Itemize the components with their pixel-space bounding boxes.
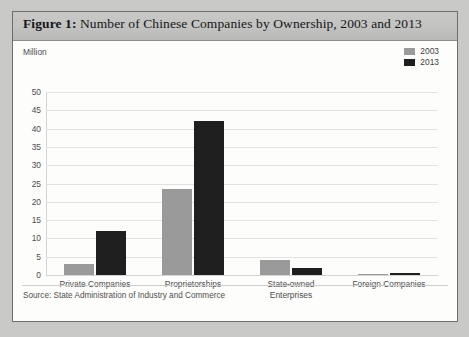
plot-area: 05101520253035404550Private CompaniesPro… [46, 92, 438, 275]
y-axis-unit-label: Million [23, 47, 47, 57]
gridline-45 [46, 110, 438, 111]
scan-page-background: Figure 1: Number of Chinese Companies by… [0, 0, 469, 337]
x-axis-category-label: State-ownedEnterprises [242, 279, 340, 300]
x-axis-label-line: Private Companies [60, 279, 131, 289]
x-axis-label-line: Foreign Companies [352, 279, 425, 289]
y-axis-tick-label: 45 [32, 105, 41, 115]
chart-legend: 20032013 [404, 46, 439, 68]
bar-2003-0 [64, 264, 94, 275]
y-axis-tick-label: 25 [32, 179, 41, 189]
x-axis-label-line: Enterprises [270, 290, 312, 300]
figure-title-text: Number of Chinese Companies by Ownership… [77, 16, 422, 31]
figure-title: Figure 1: Number of Chinese Companies by… [23, 16, 422, 32]
source-divider [22, 285, 448, 286]
bar-2013-2 [292, 268, 322, 275]
gridline-40 [46, 129, 438, 130]
y-axis-tick-label: 15 [32, 215, 41, 225]
gridline-15 [46, 220, 438, 221]
y-axis-tick-label: 40 [32, 124, 41, 134]
y-axis-tick-label: 50 [32, 87, 41, 97]
y-axis-tick-label: 10 [32, 233, 41, 243]
legend-item-2003: 2003 [404, 46, 439, 57]
legend-label: 2013 [420, 57, 439, 68]
y-axis-tick-label: 20 [32, 197, 41, 207]
y-axis-tick-label: 0 [36, 270, 41, 280]
bar-2003-3 [358, 274, 388, 275]
legend-swatch-icon [404, 48, 415, 55]
figure-title-band: Figure 1: Number of Chinese Companies by… [13, 12, 457, 41]
legend-swatch-icon [404, 59, 415, 66]
y-axis-tick-label: 5 [36, 252, 41, 262]
y-axis-tick-label: 35 [32, 142, 41, 152]
bar-2003-2 [260, 260, 290, 275]
x-axis-label-line: State-owned [267, 279, 314, 289]
legend-label: 2003 [420, 46, 439, 57]
gridline-0 [46, 275, 438, 276]
bar-2003-1 [162, 189, 192, 275]
gridline-35 [46, 147, 438, 148]
y-axis-tick-label: 30 [32, 160, 41, 170]
bar-2013-3 [390, 273, 420, 275]
legend-item-2013: 2013 [404, 57, 439, 68]
source-note: Source: State Administration of Industry… [23, 291, 225, 300]
x-axis-label-line: Proprietorships [165, 279, 221, 289]
bar-2013-1 [194, 121, 224, 275]
gridline-50 [46, 92, 438, 93]
gridline-20 [46, 202, 438, 203]
gridline-25 [46, 184, 438, 185]
figure-container: Figure 1: Number of Chinese Companies by… [12, 11, 458, 322]
figure-number-label: Figure 1: [23, 16, 77, 31]
chart-body: Million 20032013 05101520253035404550Pri… [13, 41, 457, 321]
bar-2013-0 [96, 231, 126, 275]
gridline-30 [46, 165, 438, 166]
